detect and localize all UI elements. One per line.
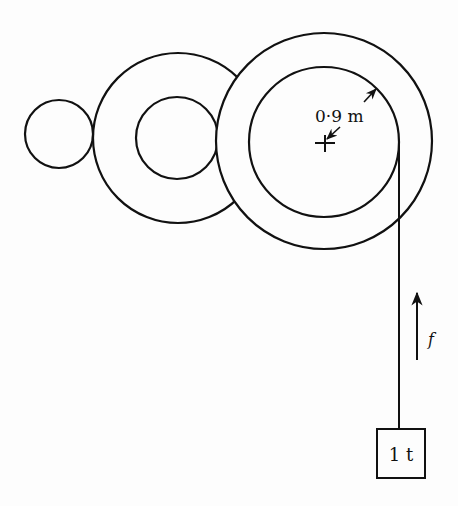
gear-diagram: 0·9 m f 1 t	[0, 0, 458, 506]
radius-label: 0·9 m	[315, 106, 364, 126]
force-label: f	[427, 330, 437, 349]
load-label: 1 t	[389, 444, 414, 465]
small-gear	[25, 100, 93, 168]
middle-gear-inner	[136, 97, 218, 179]
diagram-canvas: 0·9 m f 1 t	[0, 0, 458, 506]
